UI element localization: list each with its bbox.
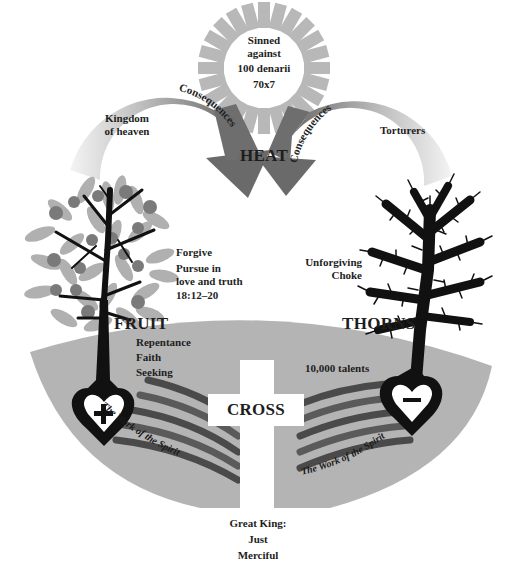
great-king-line: Great King:: [208, 516, 308, 532]
kingdom-line-1: Kingdom: [92, 112, 162, 125]
love-truth-text: love and truth: [176, 275, 243, 288]
kingdom-of-heaven-text: Kingdom of heaven: [92, 112, 162, 138]
diagram-canvas: Consequences Consequences: [0, 0, 516, 578]
seeking-text: Seeking: [136, 366, 191, 379]
just-line: Just: [208, 532, 308, 548]
fruit-root-text: Repentance Faith Seeking: [136, 336, 191, 380]
sun-line-sinned: Sinned: [224, 34, 304, 47]
sun-line-denarii: 100 denarii: [224, 62, 304, 75]
sun-text: Sinned against 100 denarii 70x7: [224, 34, 304, 91]
sun-line-70x7: 70x7: [224, 78, 304, 91]
forgive-text: Forgive: [176, 246, 243, 259]
pursue-text: Pursue in: [176, 262, 243, 275]
cross-label: CROSS: [208, 400, 304, 420]
torturers-text: Torturers: [380, 124, 425, 137]
verse-ref-text: 18:12–20: [176, 289, 243, 302]
fruit-side-text: Forgive Pursue in love and truth 18:12–2…: [176, 246, 243, 302]
choke-text: Choke: [286, 269, 362, 282]
sun-line-against: against: [224, 47, 304, 60]
unforgiving-text: Unforgiving: [286, 256, 362, 269]
fruit-label: FRUIT: [114, 314, 168, 334]
great-king-text: Great King: Just Merciful: [208, 516, 308, 564]
talents-text: 10,000 talents: [305, 362, 369, 375]
kingdom-line-2: of heaven: [92, 125, 162, 138]
faith-text: Faith: [136, 351, 191, 364]
heat-label: HEAT: [224, 146, 304, 166]
merciful-line: Merciful: [208, 548, 308, 564]
thorn-side-text: Unforgiving Choke: [286, 256, 362, 282]
thorns-label: THORNS: [342, 314, 416, 334]
repentance-text: Repentance: [136, 336, 191, 349]
